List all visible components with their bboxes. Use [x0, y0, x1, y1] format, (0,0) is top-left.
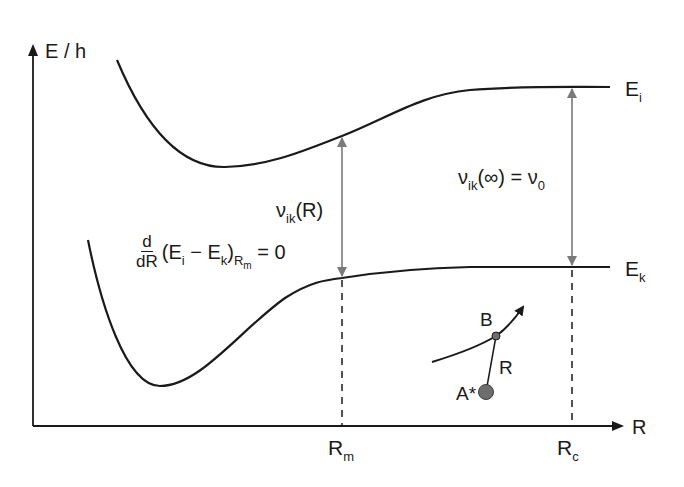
ei-label: Ei	[625, 78, 642, 99]
y-axis-label: E / h	[45, 41, 86, 61]
derivative-body: (Ei − Ek)Rm = 0	[162, 242, 286, 262]
trajectory-curve	[432, 307, 523, 362]
distance-line	[486, 336, 496, 392]
rc-label: Rc	[557, 437, 579, 458]
atom-b-icon	[492, 332, 500, 340]
distance-label: R	[499, 358, 513, 377]
nu-r-label: νik(R)	[276, 200, 323, 220]
ek-label: Ek	[625, 258, 646, 279]
rm-label: Rm	[328, 437, 354, 458]
derivative-condition: d dR (Ei − Ek)Rm = 0	[136, 233, 286, 270]
atom-b-label: B	[480, 310, 493, 329]
derivative-fraction: d dR	[136, 233, 158, 270]
atom-a-icon	[479, 385, 494, 400]
nu-inf-label: νik(∞) = ν0	[458, 167, 545, 187]
diagram-canvas	[0, 0, 684, 487]
x-axis-label: R	[632, 417, 646, 437]
upper-potential-curve	[117, 60, 610, 167]
atom-a-label: A*	[456, 384, 476, 403]
